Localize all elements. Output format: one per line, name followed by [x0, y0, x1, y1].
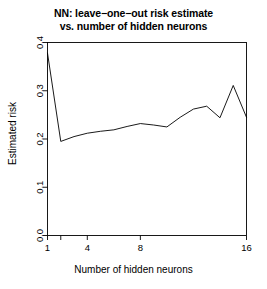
chart-figure: NN: leave−one−out risk estimatevs. numbe…: [0, 0, 267, 289]
x-tick-label: 16: [241, 242, 252, 253]
y-axis-label: Estimated risk: [7, 84, 18, 184]
x-axis-label: Number of hidden neurons: [0, 264, 267, 275]
data-line-estimated-risk: [48, 53, 247, 141]
plot-frame: [48, 43, 247, 236]
y-tick-label: 0.0: [34, 229, 45, 242]
x-tick-label: 1: [45, 242, 50, 253]
y-tick-label: 0.3: [34, 84, 45, 97]
plot-area: 0.00.10.20.30.414816: [0, 0, 267, 289]
y-tick-label: 0.4: [34, 36, 45, 49]
y-tick-label: 0.2: [34, 132, 45, 145]
x-tick-label: 4: [85, 242, 90, 253]
x-tick-label: 8: [138, 242, 143, 253]
y-tick-label: 0.1: [34, 181, 45, 194]
